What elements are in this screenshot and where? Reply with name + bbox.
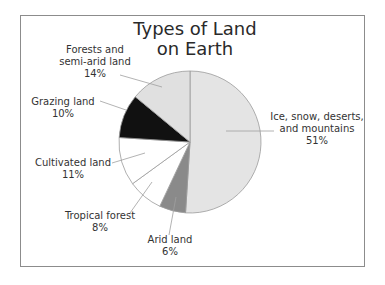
label-forests-pct: 14% bbox=[50, 68, 140, 80]
label-cultivated-pct: 11% bbox=[28, 169, 118, 181]
label-forests-line2: semi-arid land bbox=[50, 56, 140, 68]
leader-line-grazing bbox=[100, 101, 126, 110]
label-tropical: Tropical forest 8% bbox=[55, 210, 145, 234]
label-grazing-line1: Grazing land bbox=[28, 96, 98, 108]
label-arid-pct: 6% bbox=[130, 246, 210, 258]
label-tropical-pct: 8% bbox=[55, 222, 145, 234]
label-forests: Forests and semi-arid land 14% bbox=[50, 44, 140, 80]
label-forests-line1: Forests and bbox=[50, 44, 140, 56]
label-tropical-line1: Tropical forest bbox=[55, 210, 145, 222]
label-grazing: Grazing land 10% bbox=[28, 96, 98, 120]
label-cultivated: Cultivated land 11% bbox=[28, 157, 118, 181]
label-ice-pct: 51% bbox=[262, 135, 372, 147]
label-ice-line1: Ice, snow, deserts, bbox=[262, 111, 372, 123]
label-grazing-pct: 10% bbox=[28, 108, 98, 120]
label-arid: Arid land 6% bbox=[130, 234, 210, 258]
title-line-2: on Earth bbox=[130, 39, 260, 59]
label-arid-line1: Arid land bbox=[130, 234, 210, 246]
label-cultivated-line1: Cultivated land bbox=[28, 157, 118, 169]
chart-title: Types of Land on Earth bbox=[130, 19, 260, 59]
label-ice-line2: and mountains bbox=[262, 123, 372, 135]
label-ice: Ice, snow, deserts, and mountains 51% bbox=[262, 111, 372, 147]
pie-slice-ice bbox=[186, 71, 261, 213]
title-line-1: Types of Land bbox=[130, 19, 260, 39]
